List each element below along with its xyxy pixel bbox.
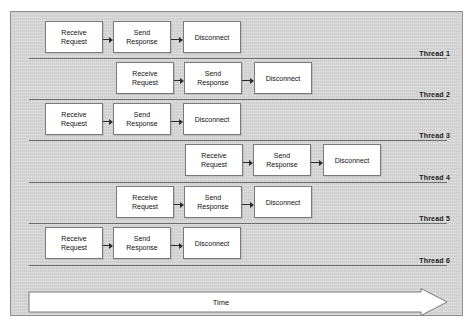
- connector-shaft: [311, 162, 319, 163]
- thread-1-receive-request-box: Receive Request: [45, 21, 103, 53]
- step-label-line: Disconnect: [195, 115, 230, 124]
- thread-2-send-response-box: Send Response: [184, 62, 242, 94]
- thread-5-send-response-box: Send Response: [184, 186, 242, 218]
- thread-1-connector-2: [171, 36, 183, 43]
- thread-3-label: Thread 3: [419, 132, 450, 139]
- thread-5-receive-request-box: Receive Request: [116, 186, 174, 218]
- step-label-line: Request: [61, 37, 87, 46]
- thread-4-connector-2: [311, 159, 323, 166]
- connector-shaft: [242, 80, 250, 81]
- diagram-frame: Receive Request Send Response Disconnect…: [10, 11, 463, 316]
- diagram-canvas: Receive Request Send Response Disconnect…: [0, 0, 473, 327]
- thread-3-connector-1: [103, 118, 113, 125]
- lane-divider-3: [29, 140, 447, 141]
- thread-4-receive-request-box: Receive Request: [185, 144, 243, 176]
- lane-divider-6: [29, 265, 447, 266]
- step-label-line: Response: [266, 160, 298, 169]
- step-label-line: Disconnect: [266, 74, 301, 83]
- thread-6-connector-1: [103, 242, 113, 249]
- thread-2-label: Thread 2: [419, 91, 450, 98]
- step-label-line: Disconnect: [195, 33, 230, 42]
- step-label-line: Response: [126, 37, 158, 46]
- lane-divider-5: [29, 223, 447, 224]
- step-label-line: Send: [126, 110, 158, 119]
- thread-3-connector-2: [171, 118, 183, 125]
- thread-4-disconnect-box: Disconnect: [323, 144, 381, 176]
- thread-2-receive-request-box: Receive Request: [116, 62, 174, 94]
- connector-shaft: [242, 204, 250, 205]
- thread-5-connector-2: [242, 201, 254, 208]
- step-label-line: Send: [197, 69, 229, 78]
- lane-divider-4: [29, 182, 447, 183]
- thread-2-connector-1: [174, 77, 184, 84]
- step-label-line: Send: [197, 193, 229, 202]
- thread-1-label: Thread 1: [419, 50, 450, 57]
- step-label-line: Receive: [61, 28, 87, 37]
- step-label-line: Response: [126, 243, 158, 252]
- step-label-line: Request: [61, 119, 87, 128]
- step-label-line: Request: [132, 202, 158, 211]
- step-label-line: Response: [197, 78, 229, 87]
- step-label-line: Request: [132, 78, 158, 87]
- thread-6-label: Thread 6: [419, 257, 450, 264]
- step-label-line: Receive: [201, 151, 227, 160]
- thread-5-connector-1: [174, 201, 184, 208]
- step-label-line: Receive: [61, 110, 87, 119]
- step-label-line: Request: [61, 243, 87, 252]
- thread-4-send-response-box: Send Response: [253, 144, 311, 176]
- thread-6-receive-request-box: Receive Request: [45, 227, 103, 259]
- thread-2-connector-2: [242, 77, 254, 84]
- lane-divider-2: [29, 99, 447, 100]
- thread-3-send-response-box: Send Response: [113, 103, 171, 135]
- step-label-line: Disconnect: [335, 156, 370, 165]
- thread-5-disconnect-box: Disconnect: [254, 186, 312, 218]
- step-label-line: Response: [126, 119, 158, 128]
- step-label-line: Disconnect: [266, 198, 301, 207]
- thread-5-label: Thread 5: [419, 215, 450, 222]
- step-label-line: Send: [126, 28, 158, 37]
- thread-2-disconnect-box: Disconnect: [254, 62, 312, 94]
- connector-shaft: [171, 121, 179, 122]
- step-label-line: Send: [266, 151, 298, 160]
- step-label-line: Request: [201, 160, 227, 169]
- thread-6-connector-2: [171, 242, 183, 249]
- thread-1-connector-1: [103, 36, 113, 43]
- thread-3-disconnect-box: Disconnect: [183, 103, 241, 135]
- time-axis-arrow-icon: [28, 288, 448, 316]
- step-label-line: Disconnect: [195, 239, 230, 248]
- step-label-line: Receive: [132, 69, 158, 78]
- step-label-line: Send: [126, 234, 158, 243]
- step-label-line: Receive: [132, 193, 158, 202]
- thread-4-label: Thread 4: [419, 174, 450, 181]
- step-label-line: Receive: [61, 234, 87, 243]
- thread-6-send-response-box: Send Response: [113, 227, 171, 259]
- thread-6-disconnect-box: Disconnect: [183, 227, 241, 259]
- thread-4-connector-1: [243, 159, 253, 166]
- step-label-line: Response: [197, 202, 229, 211]
- connector-shaft: [171, 39, 179, 40]
- thread-1-send-response-box: Send Response: [113, 21, 171, 53]
- thread-1-disconnect-box: Disconnect: [183, 21, 241, 53]
- connector-shaft: [171, 245, 179, 246]
- thread-3-receive-request-box: Receive Request: [45, 103, 103, 135]
- lane-divider-1: [29, 58, 447, 59]
